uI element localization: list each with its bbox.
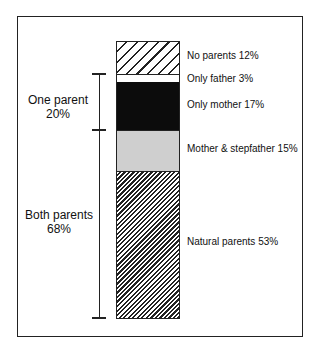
label-mother-stepfather: Mother & stepfather 15% <box>187 143 298 155</box>
segment-only-mother <box>116 82 180 130</box>
bracket-tick-bottom <box>92 317 106 319</box>
group-one-parent: One parent 20% <box>13 93 103 121</box>
segment-natural-parents <box>116 171 180 319</box>
group-both-parents-label: Both parents <box>14 208 104 222</box>
label-no-parents: No parents 12% <box>187 50 259 62</box>
group-both-parents: Both parents 68% <box>14 208 104 236</box>
label-only-father: Only father 3% <box>187 73 253 85</box>
segment-no-parents <box>116 41 180 74</box>
bracket-tick-middle <box>92 129 106 131</box>
segment-only-father <box>116 74 180 82</box>
segment-mother-stepfather <box>116 130 180 171</box>
bracket-tick-top <box>92 73 106 75</box>
label-natural-parents: Natural parents 53% <box>187 236 278 248</box>
group-one-parent-value: 20% <box>13 107 103 121</box>
label-only-mother: Only mother 17% <box>187 99 264 111</box>
group-both-parents-value: 68% <box>14 222 104 236</box>
group-one-parent-label: One parent <box>13 93 103 107</box>
